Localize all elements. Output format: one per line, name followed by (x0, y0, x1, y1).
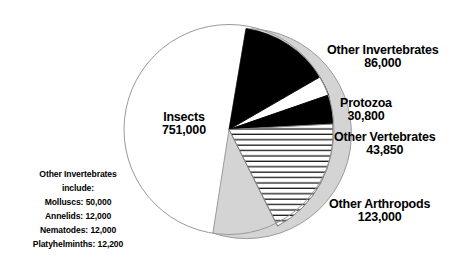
note-line: Nematodes: 12,000 (14, 224, 142, 238)
note-line: include: (14, 182, 142, 196)
pie-label-insects-category: Insects (141, 111, 227, 124)
pie-label-other-invertebrates: Other Invertebrates 86,000 (327, 44, 439, 71)
note-line: Annelids: 12,000 (14, 210, 142, 224)
note-line: Platyhelminths: 12,200 (14, 238, 142, 252)
pie-label-protozoa: Protozoa 30,800 (340, 97, 392, 124)
pie-label-other-arthropods: Other Arthropods 123,000 (329, 198, 430, 225)
pie-label-insects-value: 751,000 (141, 124, 227, 137)
pie-label-other-vertebrates-value: 43,850 (334, 144, 436, 157)
pie-label-protozoa-value: 30,800 (340, 110, 392, 123)
other-invertebrates-note: Other Invertebrates include: Molluscs: 5… (14, 168, 142, 252)
pie-chart-figure: Insects 751,000 Other Invertebrates 86,0… (0, 0, 473, 269)
pie-label-other-vertebrates-category: Other Vertebrates (334, 131, 436, 144)
pie-label-other-arthropods-category: Other Arthropods (329, 198, 430, 211)
pie-label-insects: Insects 751,000 (141, 111, 227, 138)
pie-label-protozoa-category: Protozoa (340, 97, 392, 110)
pie-label-other-invertebrates-category: Other Invertebrates (327, 44, 439, 57)
pie-label-other-arthropods-value: 123,000 (329, 211, 430, 224)
pie-label-other-vertebrates: Other Vertebrates 43,850 (334, 131, 436, 158)
note-line: Other Invertebrates (14, 168, 142, 182)
note-line: Molluscs: 50,000 (14, 196, 142, 210)
pie-label-other-invertebrates-value: 86,000 (327, 57, 439, 70)
